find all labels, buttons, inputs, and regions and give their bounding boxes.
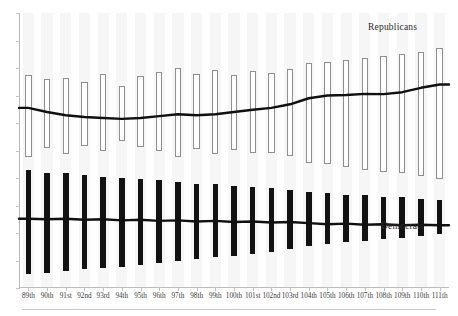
- democrat-range-bar: [119, 178, 125, 267]
- democrat-range-bar: [343, 195, 349, 242]
- republican-range-bar: [362, 58, 368, 170]
- republican-range-bar: [137, 76, 143, 147]
- republican-range-bar: [324, 62, 330, 164]
- y-axis-tick: [16, 178, 20, 179]
- republican-range-bar: [287, 69, 293, 156]
- x-axis-tick-label: 96th: [153, 292, 166, 300]
- democrat-range-bar: [399, 197, 405, 238]
- x-axis-tick: [103, 288, 104, 291]
- y-axis-tick: [16, 261, 20, 262]
- republican-range-bar: [231, 75, 237, 150]
- democrat-range-bar: [213, 184, 219, 257]
- democrat-range-bar: [381, 197, 387, 239]
- y-axis-tick: [16, 96, 20, 97]
- y-axis-tick: [16, 68, 20, 69]
- democrat-range-bar: [437, 200, 443, 234]
- republican-range-bar: [100, 74, 106, 151]
- democrat-range-bar: [231, 186, 237, 256]
- democrat-range-bar: [362, 195, 368, 241]
- republican-range-bar: [81, 82, 87, 146]
- series-label-republicans: Republicans: [368, 22, 417, 32]
- x-axis-tick: [215, 288, 216, 291]
- x-axis-tick-label: 110th: [413, 292, 429, 300]
- x-axis-tick-label: 89th: [22, 292, 35, 300]
- x-axis-tick: [271, 288, 272, 291]
- x-axis-tick-label: 104th: [301, 292, 317, 300]
- republican-range-bar: [418, 52, 424, 176]
- republican-range-bar: [399, 54, 405, 172]
- x-axis-tick: [84, 288, 85, 291]
- democrat-range-bar: [156, 180, 162, 263]
- x-axis-tick: [122, 288, 123, 291]
- footer-rule: [22, 309, 436, 310]
- democrat-range-bar: [194, 184, 200, 260]
- democrat-range-bar: [287, 190, 293, 250]
- x-axis-tick-label: 95th: [134, 292, 147, 300]
- republican-range-bar: [436, 48, 442, 179]
- republican-range-bar: [212, 70, 218, 153]
- x-axis-tick: [234, 288, 235, 291]
- y-axis-tick: [16, 41, 20, 42]
- x-axis-tick-label: 92nd: [77, 292, 91, 300]
- x-axis-tick-label-group: 89th90th91st92nd93rd94th95th96th97th98th…: [19, 292, 449, 304]
- x-axis-tick-label: 93rd: [97, 292, 110, 300]
- democrat-range-bar: [138, 179, 144, 265]
- republican-range-bar: [119, 86, 125, 141]
- x-axis-tick: [384, 288, 385, 291]
- x-axis-tick: [365, 288, 366, 291]
- x-axis-tick-label: 105th: [319, 292, 335, 300]
- republican-range-bar: [380, 56, 386, 172]
- x-axis-tick-label: 103rd: [282, 292, 299, 300]
- x-axis-tick: [309, 288, 310, 291]
- republican-range-bar: [44, 79, 50, 148]
- x-axis-tick: [440, 288, 441, 291]
- plot-area: [19, 13, 449, 288]
- x-axis-tick-label: 94th: [115, 292, 128, 300]
- x-axis-tick: [327, 288, 328, 291]
- republican-range-bar: [25, 75, 31, 157]
- x-axis-tick: [421, 288, 422, 291]
- x-axis-tick: [159, 288, 160, 291]
- x-axis-tick-label: 106th: [338, 292, 354, 300]
- x-axis-tick: [66, 288, 67, 291]
- republican-range-bar: [156, 72, 162, 150]
- x-axis-tick: [28, 288, 29, 291]
- x-axis-tick: [141, 288, 142, 291]
- y-axis-tick: [16, 151, 20, 152]
- y-axis-tick: [16, 288, 20, 289]
- x-axis-tick-label: 102nd: [262, 292, 280, 300]
- x-axis-tick-label: 108th: [375, 292, 391, 300]
- x-axis-tick: [197, 288, 198, 291]
- x-axis-tick: [47, 288, 48, 291]
- democrat-range-bar: [44, 173, 50, 273]
- y-axis-tick: [16, 233, 20, 234]
- x-axis-tick-label: 100th: [226, 292, 242, 300]
- democrat-range-bar: [63, 173, 69, 271]
- y-axis-tick: [16, 123, 20, 124]
- x-axis-tick: [402, 288, 403, 291]
- democrat-range-bar: [175, 182, 181, 261]
- x-axis-tick: [178, 288, 179, 291]
- republican-range-bar: [250, 71, 256, 153]
- x-axis-tick-label: 109th: [394, 292, 410, 300]
- democrat-range-bar: [82, 175, 88, 270]
- republican-range-bar: [268, 73, 274, 153]
- series-label-democrats: Democrats: [381, 221, 424, 231]
- republican-range-bar: [63, 78, 69, 153]
- republican-range-bar: [193, 74, 199, 149]
- x-axis-tick: [290, 288, 291, 291]
- y-axis-tick: [16, 206, 20, 207]
- republican-range-bar: [343, 60, 349, 167]
- democrat-range-bar: [325, 193, 331, 244]
- democrat-range-bar: [250, 187, 256, 254]
- x-axis-tick-label: 99th: [209, 292, 222, 300]
- democrat-range-bar: [26, 170, 32, 275]
- democrat-range-bar: [269, 188, 275, 251]
- x-axis-tick-label: 98th: [190, 292, 203, 300]
- x-axis-tick-label: 111th: [432, 292, 448, 300]
- x-axis-tick: [346, 288, 347, 291]
- democrat-range-bar: [100, 177, 106, 269]
- x-axis-tick-label: 91st: [60, 292, 72, 300]
- x-axis-tick-label: 97th: [172, 292, 185, 300]
- chart-figure: Republicans Democrats 89th90th91st92nd93…: [0, 0, 458, 316]
